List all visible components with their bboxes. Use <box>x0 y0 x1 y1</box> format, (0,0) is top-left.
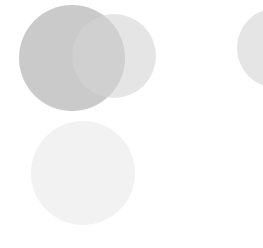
circle-right-edge-partial <box>237 8 263 88</box>
circle-bottom-faint <box>31 121 135 225</box>
circles-canvas <box>0 0 263 248</box>
circle-right-overlap <box>72 14 156 98</box>
